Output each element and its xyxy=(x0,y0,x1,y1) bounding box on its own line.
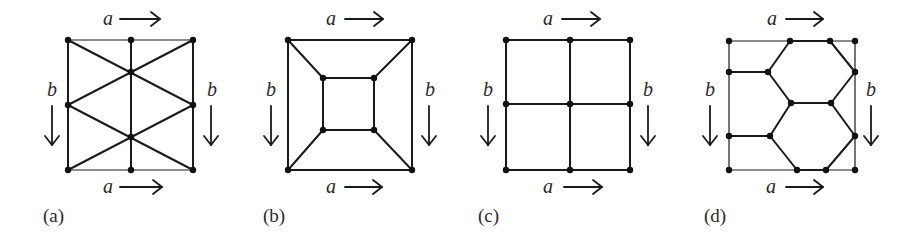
graph-vertex xyxy=(765,69,771,75)
edge-label-left: b xyxy=(266,78,276,100)
graph-vertex xyxy=(726,133,732,139)
edge-label-bottom: a xyxy=(103,175,113,197)
graph-vertex xyxy=(567,167,573,173)
right-direction-arrow-icon xyxy=(422,106,436,145)
graph-vertex xyxy=(627,37,633,43)
panel-c-grid-square: aabb(c) xyxy=(478,7,655,227)
graph-vertex xyxy=(65,37,71,43)
panel-caption: (d) xyxy=(704,205,726,227)
graph-vertex xyxy=(190,167,196,173)
graph-vertex xyxy=(503,37,509,43)
graph-vertex xyxy=(788,100,794,106)
graph-vertex xyxy=(767,133,773,139)
graph-vertex xyxy=(128,134,134,140)
top-direction-arrow-icon xyxy=(345,12,383,26)
graph-vertex xyxy=(190,37,196,43)
right-direction-arrow-icon xyxy=(641,106,655,145)
panel-d-hexagonal-tiling: aabb(d) xyxy=(703,7,878,227)
graph-vertex xyxy=(128,167,134,173)
graph-vertex xyxy=(627,167,633,173)
panel-caption: (c) xyxy=(478,205,499,227)
graph-vertex xyxy=(828,100,834,106)
graph-vertex xyxy=(409,167,415,173)
left-direction-arrow-icon xyxy=(45,106,59,145)
panel-b-nested-squares: aabb(b) xyxy=(263,7,436,227)
graph-vertex xyxy=(190,102,196,108)
graph-vertex xyxy=(787,38,793,44)
edge-label-left: b xyxy=(483,78,493,100)
graph-vertex xyxy=(285,167,291,173)
edge-label-top: a xyxy=(326,7,336,29)
graph-vertex xyxy=(320,127,326,133)
graph-vertex xyxy=(627,101,633,107)
graph-vertex xyxy=(409,37,415,43)
graph-edge xyxy=(770,103,791,136)
graph-vertex xyxy=(65,167,71,173)
edge-label-right: b xyxy=(643,78,653,100)
edge-label-bottom: a xyxy=(766,175,776,197)
left-direction-arrow-icon xyxy=(703,106,717,145)
bottom-direction-arrow-icon xyxy=(786,180,823,194)
graph-edge xyxy=(830,41,855,72)
panel-caption: (a) xyxy=(43,205,64,227)
graph-vertex xyxy=(852,69,858,75)
graph-edge xyxy=(768,72,791,103)
graph-edge xyxy=(374,130,412,170)
panel-a-triangulated-square: aabb(a) xyxy=(43,7,218,227)
graph-vertex xyxy=(823,167,829,173)
graph-vertex xyxy=(503,101,509,107)
graph-vertex xyxy=(371,75,377,81)
edge-label-bottom: a xyxy=(326,175,336,197)
edge-label-top: a xyxy=(103,7,113,29)
graph-vertex xyxy=(285,37,291,43)
panel-caption: (b) xyxy=(263,205,285,227)
graph-vertex xyxy=(65,102,71,108)
figure-canvas: aabb(a) aabb(b) aabb(c) aabb(d) xyxy=(0,0,919,248)
edge-label-left: b xyxy=(705,78,715,100)
graph-vertex xyxy=(567,101,573,107)
graph-vertex xyxy=(371,127,377,133)
bottom-direction-arrow-icon xyxy=(120,180,162,194)
edge-label-right: b xyxy=(425,78,435,100)
graph-vertex xyxy=(503,167,509,173)
bottom-direction-arrow-icon xyxy=(345,180,382,194)
top-direction-arrow-icon xyxy=(786,12,823,26)
graph-vertex xyxy=(827,38,833,44)
graph-vertex xyxy=(567,37,573,43)
graph-edge xyxy=(288,130,323,170)
graph-edge xyxy=(288,40,323,78)
graph-vertex xyxy=(320,75,326,81)
graph-edge xyxy=(768,41,790,72)
graph-vertex xyxy=(852,167,858,173)
top-direction-arrow-icon xyxy=(562,12,600,26)
edge-label-top: a xyxy=(543,7,553,29)
graph-vertex xyxy=(726,69,732,75)
graph-vertex xyxy=(128,69,134,75)
edge-label-right: b xyxy=(866,78,876,100)
graph-edge xyxy=(826,136,855,170)
graph-edge xyxy=(374,40,412,78)
graph-edge xyxy=(770,136,797,170)
graph-vertex xyxy=(128,37,134,43)
left-direction-arrow-icon xyxy=(481,106,495,145)
edge-label-top: a xyxy=(767,7,777,29)
graph-vertex xyxy=(794,167,800,173)
edge-label-right: b xyxy=(207,78,217,100)
top-direction-arrow-icon xyxy=(120,12,160,26)
graph-vertex xyxy=(726,38,732,44)
right-direction-arrow-icon xyxy=(864,106,878,145)
edge-label-bottom: a xyxy=(543,175,553,197)
right-direction-arrow-icon xyxy=(204,106,218,145)
graph-vertex xyxy=(852,38,858,44)
graph-vertex xyxy=(726,167,732,173)
left-direction-arrow-icon xyxy=(264,106,278,145)
graph-edge xyxy=(831,72,855,103)
graph-edge xyxy=(831,103,855,136)
bottom-direction-arrow-icon xyxy=(564,180,602,194)
edge-label-left: b xyxy=(47,78,57,100)
graph-vertex xyxy=(852,133,858,139)
